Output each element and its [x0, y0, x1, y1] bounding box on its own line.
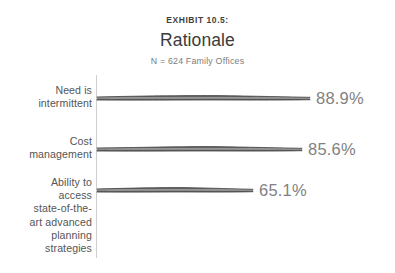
bar-ribbon: [97, 186, 253, 195]
bar-ribbon: [97, 94, 310, 103]
bar-category-label: Ability to access state-of-the- art adva…: [8, 176, 92, 255]
chart-plot-area: Need is intermittent88.9%Cost management…: [0, 0, 395, 273]
bar-value-label: 85.6%: [308, 140, 356, 159]
bar-value-label: 88.9%: [316, 89, 364, 108]
bar-category-label: Cost management: [8, 135, 92, 161]
bar-value-label: 65.1%: [259, 181, 307, 200]
bar-category-label: Need is intermittent: [8, 84, 92, 110]
bar-ribbon: [97, 145, 302, 154]
